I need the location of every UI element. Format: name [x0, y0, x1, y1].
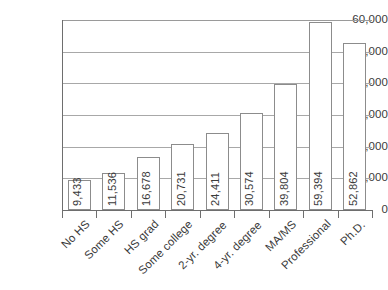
y-axis-line: [62, 20, 63, 211]
x-axis-line: [62, 210, 373, 211]
x-axis-tick: [338, 211, 339, 218]
x-axis-tick: [131, 211, 132, 218]
bar-value-label: 30,574: [244, 171, 255, 206]
bar-value-label: 9,433: [72, 177, 83, 206]
x-axis-tick: [269, 211, 270, 218]
x-axis-category-label: Ph.D.: [338, 218, 367, 247]
plot-area: 9,43311,53616,67820,73124,41130,57439,80…: [62, 20, 372, 210]
x-axis-tick: [303, 211, 304, 218]
bar-value-label: 59,394: [313, 171, 324, 206]
x-axis-tick: [200, 211, 201, 218]
x-axis-category-label: No HS: [59, 218, 92, 251]
x-axis-tick: [234, 211, 235, 218]
bar-chart: 010,00020,00030,00040,00050,00060,000 9,…: [0, 0, 388, 290]
x-axis-tick: [62, 211, 63, 218]
bar-value-label: 39,804: [279, 171, 290, 206]
bar-value-label: 11,536: [107, 172, 118, 206]
bar-value-label: 20,731: [176, 171, 187, 206]
gridline: [62, 20, 372, 21]
bar-value-label: 52,862: [348, 171, 359, 206]
bar-value-label: 24,411: [210, 172, 221, 206]
x-axis-tick: [372, 211, 373, 218]
bar-value-label: 16,678: [141, 171, 152, 206]
x-axis-tick: [165, 211, 166, 218]
x-axis-tick: [96, 211, 97, 218]
